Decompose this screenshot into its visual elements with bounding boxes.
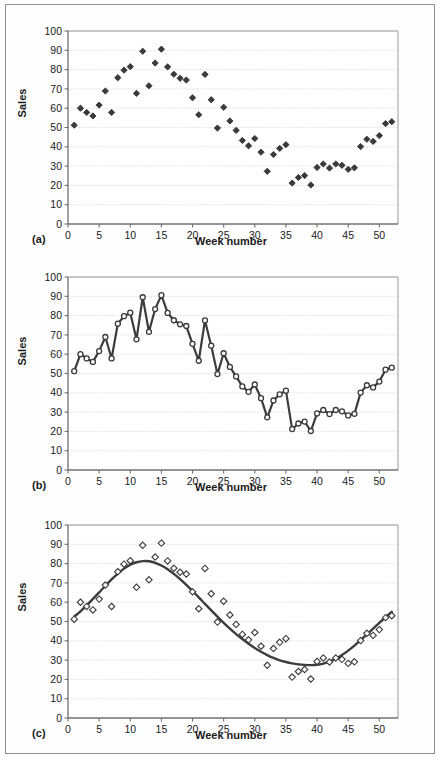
svg-text:35: 35 <box>280 229 292 241</box>
svg-text:20: 20 <box>50 673 62 685</box>
data-point <box>240 384 245 389</box>
data-point <box>327 412 332 417</box>
data-point <box>246 389 251 394</box>
svg-text:90: 90 <box>50 538 62 550</box>
data-point <box>90 359 95 364</box>
data-point <box>321 407 326 412</box>
svg-text:40: 40 <box>311 723 323 735</box>
svg-text:0: 0 <box>65 475 71 487</box>
svg-text:30: 30 <box>249 229 261 241</box>
data-point <box>140 295 145 300</box>
svg-text:80: 80 <box>50 63 62 75</box>
data-point <box>159 293 164 298</box>
data-point <box>134 337 139 342</box>
data-point <box>259 396 264 401</box>
svg-text:50: 50 <box>373 229 385 241</box>
data-point <box>389 365 394 370</box>
data-point <box>202 318 207 323</box>
data-point <box>165 310 170 315</box>
data-point <box>290 427 295 432</box>
svg-text:40: 40 <box>50 386 62 398</box>
data-point <box>302 419 307 424</box>
svg-text:25: 25 <box>218 475 230 487</box>
svg-text:20: 20 <box>50 179 62 191</box>
data-point <box>78 352 83 357</box>
svg-text:100: 100 <box>44 519 62 531</box>
svg-text:70: 70 <box>50 83 62 95</box>
svg-text:0: 0 <box>65 723 71 735</box>
data-point <box>97 349 102 354</box>
data-point <box>315 411 320 416</box>
figure-frame: Sales Week number (a) 010203040506070809… <box>5 4 435 754</box>
svg-text:30: 30 <box>50 654 62 666</box>
svg-text:70: 70 <box>50 329 62 341</box>
svg-text:10: 10 <box>50 444 62 456</box>
panel-a-scatter: Sales Week number (a) 010203040506070809… <box>6 9 436 257</box>
data-point <box>352 411 357 416</box>
data-point <box>346 413 351 418</box>
svg-text:50: 50 <box>373 723 385 735</box>
svg-text:50: 50 <box>50 367 62 379</box>
data-point <box>196 358 201 363</box>
data-point <box>122 314 127 319</box>
data-point <box>383 367 388 372</box>
svg-text:50: 50 <box>50 121 62 133</box>
svg-text:35: 35 <box>280 723 292 735</box>
svg-text:20: 20 <box>187 229 199 241</box>
svg-text:10: 10 <box>124 475 136 487</box>
panel-c-fitted: Sales Week number (c) 010203040506070809… <box>6 503 436 751</box>
data-point <box>358 390 363 395</box>
data-point <box>339 409 344 414</box>
chart-b-svg: 0102030405060708090100051015202530354045… <box>6 257 436 503</box>
svg-text:100: 100 <box>44 271 62 283</box>
data-point <box>377 379 382 384</box>
data-point <box>364 383 369 388</box>
svg-text:0: 0 <box>56 218 62 230</box>
svg-text:20: 20 <box>187 475 199 487</box>
data-point <box>84 356 89 361</box>
svg-text:5: 5 <box>96 475 102 487</box>
svg-text:60: 60 <box>50 102 62 114</box>
svg-text:5: 5 <box>96 229 102 241</box>
svg-text:30: 30 <box>50 406 62 418</box>
svg-text:40: 40 <box>50 634 62 646</box>
svg-text:30: 30 <box>249 723 261 735</box>
svg-text:15: 15 <box>156 723 168 735</box>
data-point <box>128 310 133 315</box>
data-point <box>209 343 214 348</box>
svg-text:25: 25 <box>218 723 230 735</box>
svg-text:10: 10 <box>50 692 62 704</box>
chart-a-svg: 0102030405060708090100051015202530354045… <box>6 9 436 257</box>
figure-page: Sales Week number (a) 010203040506070809… <box>0 0 440 760</box>
svg-text:80: 80 <box>50 309 62 321</box>
svg-text:45: 45 <box>342 723 354 735</box>
svg-text:100: 100 <box>44 25 62 37</box>
data-point <box>115 321 120 326</box>
svg-text:50: 50 <box>373 475 385 487</box>
data-point <box>252 382 257 387</box>
data-point <box>72 369 77 374</box>
svg-text:0: 0 <box>65 229 71 241</box>
data-point <box>265 415 270 420</box>
svg-text:50: 50 <box>50 615 62 627</box>
svg-text:20: 20 <box>187 723 199 735</box>
data-point <box>234 374 239 379</box>
svg-text:30: 30 <box>249 475 261 487</box>
svg-text:40: 40 <box>50 140 62 152</box>
svg-text:10: 10 <box>124 229 136 241</box>
svg-text:40: 40 <box>311 475 323 487</box>
data-point <box>184 324 189 329</box>
svg-text:15: 15 <box>156 475 168 487</box>
data-point <box>371 385 376 390</box>
data-point <box>109 356 114 361</box>
svg-text:20: 20 <box>50 425 62 437</box>
data-point <box>333 407 338 412</box>
svg-text:40: 40 <box>311 229 323 241</box>
svg-text:10: 10 <box>50 198 62 210</box>
data-point <box>283 388 288 393</box>
data-point <box>146 329 151 334</box>
svg-text:80: 80 <box>50 557 62 569</box>
data-point <box>308 429 313 434</box>
data-point <box>190 341 195 346</box>
data-point <box>153 307 158 312</box>
